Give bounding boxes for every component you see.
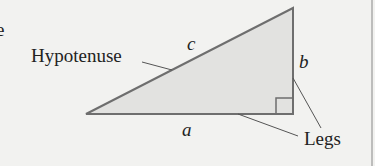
leg-b-leader — [293, 78, 321, 128]
side-a-label: a — [182, 119, 192, 140]
legs-label: Legs — [304, 128, 341, 149]
leg-a-leader — [238, 114, 298, 136]
side-b-label: b — [299, 51, 309, 72]
hypotenuse-leader — [142, 62, 172, 70]
side-c-label: c — [187, 33, 196, 54]
hypotenuse-label: Hypotenuse — [31, 45, 122, 66]
stray-mark: e — [0, 19, 4, 40]
right-triangle-diagram: Hypotenuse Legs a b c e — [0, 0, 375, 166]
